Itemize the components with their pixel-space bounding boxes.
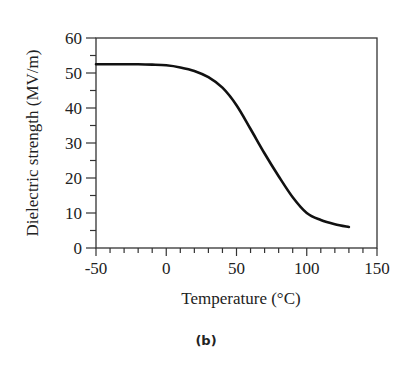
x-tick-label: 0: [162, 259, 171, 278]
chart: -500501001500102030405060 Temperature (°…: [0, 0, 412, 330]
y-tick-label: 40: [65, 99, 82, 118]
plot-area: -500501001500102030405060: [65, 29, 390, 278]
plot-frame: [96, 38, 377, 248]
x-tick-label: -50: [85, 259, 108, 278]
y-tick-label: 20: [65, 169, 82, 188]
y-tick-label: 10: [65, 204, 82, 223]
x-axis-label: Temperature (°C): [181, 289, 300, 308]
y-tick-label: 60: [65, 29, 82, 48]
y-tick-label: 30: [65, 134, 82, 153]
y-tick-label: 50: [65, 64, 82, 83]
x-tick-label: 50: [228, 259, 245, 278]
x-tick-label: 150: [364, 259, 390, 278]
figure-caption: (b): [0, 333, 412, 348]
y-axis-label: Dielectric strength (MV/m): [23, 50, 42, 237]
y-tick-label: 0: [74, 239, 83, 258]
data-series-line: [96, 64, 349, 227]
x-tick-label: 100: [294, 259, 320, 278]
